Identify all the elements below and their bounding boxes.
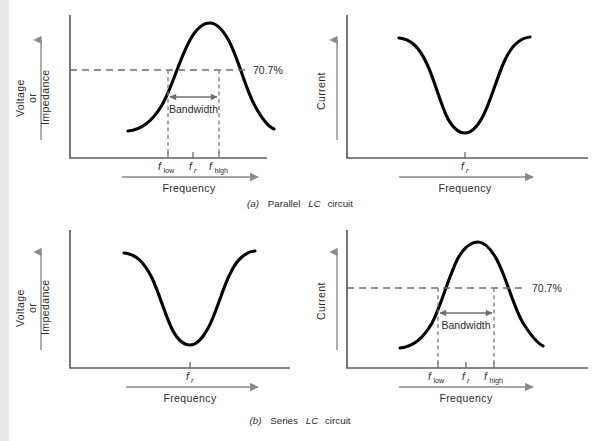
caption-b-italic: LC [306,415,319,426]
svg-text:f: f [462,370,466,382]
panel-a-right-curve [399,37,530,133]
svg-text:f: f [158,160,162,172]
svg-text:high: high [215,166,229,175]
figure-canvas: Bandwidth 70.7% f low f r f high Volt [0,0,601,441]
panel-a-right-chart: f r Current Frequency [315,15,588,194]
panel-a-right-tick-label-fr: f r [461,160,469,175]
svg-text:f: f [428,370,432,382]
panel-b-bandwidth-label: Bandwidth [441,319,490,331]
panel-a-percent-label: 70.7% [253,64,283,76]
caption-b-before: Series [270,415,298,426]
panel-a-tick-label-fr: f r [189,160,197,175]
panel-b-percent-label: 70.7% [532,282,562,294]
caption-a-prefix: (a) [247,198,259,209]
panel-a-right-ylabel: Current [315,72,327,110]
panel-b-left-ylabel-or: or [26,303,38,313]
panel-a-tick-label-flow: f low [158,160,175,175]
panel-a-tick-label-fhigh: f high [209,160,228,175]
caption-a: (a) Parallel LC circuit [247,198,353,209]
svg-text:low: low [434,376,446,385]
svg-text:f: f [209,160,213,172]
panel-a-right-xlabel: Frequency [438,182,492,194]
resonance-figure: Bandwidth 70.7% f low f r f high Volt [0,0,601,441]
panel-b-left-tick-label-fr: f r [186,370,194,385]
panel-b-left-ylabel-impedance: Impedance [39,279,51,335]
svg-text:r: r [194,166,197,175]
svg-text:r: r [467,376,470,385]
caption-b-prefix: (b) [249,415,261,426]
panel-a-left-xlabel: Frequency [162,182,216,194]
panel-b-right-axes [347,230,588,368]
caption-b-after: circuit [325,415,351,426]
svg-text:(a) Parallel L: (a) Parallel LC circuit [247,198,353,209]
panel-a-left-ylabel-voltage: Voltage [14,79,26,117]
panel-b-right-xlabel: Frequency [439,392,493,404]
panel-b-left-chart: f r Voltage or Impedance Frequency [14,230,290,404]
panel-b-tick-label-flow: f low [428,370,445,385]
panel-b-tick-label-fhigh: f high [484,370,503,385]
svg-text:f: f [484,370,488,382]
page-left-margin-strip [0,0,9,441]
caption-b: (b) Series LC circuit [249,415,350,426]
panel-a-left-ylabel-or: or [26,93,38,103]
svg-text:high: high [490,376,504,385]
panel-a-left-ylabel-impedance: Impedance [39,69,51,125]
panel-b-left-xlabel: Frequency [163,392,217,404]
svg-text:r: r [191,376,194,385]
panel-b-right-chart: Bandwidth 70.7% f low f r f high Current… [315,230,588,404]
panel-b-left-ylabel-voltage: Voltage [14,289,26,327]
panel-a-bandwidth-label: Bandwidth [169,103,218,115]
caption-a-after: circuit [327,198,353,209]
svg-text:f: f [189,160,193,172]
panel-a-right-axes [347,15,588,158]
panel-b-left-axes [70,230,290,368]
panel-b-tick-label-fr: f r [462,370,470,385]
svg-text:f: f [461,160,465,172]
caption-a-italic: LC [308,198,321,209]
svg-text:low: low [164,166,176,175]
svg-text:f: f [186,370,190,382]
panel-b-right-ylabel: Current [315,282,327,320]
panel-a-left-chart: Bandwidth 70.7% f low f r f high Volt [14,15,283,194]
panel-b-left-curve [124,251,255,345]
panel-b-right-curve [400,242,543,348]
svg-text:r: r [466,166,469,175]
svg-text:(b) Series LC: (b) Series LC circuit [249,415,350,426]
caption-a-before: Parallel [268,198,301,209]
